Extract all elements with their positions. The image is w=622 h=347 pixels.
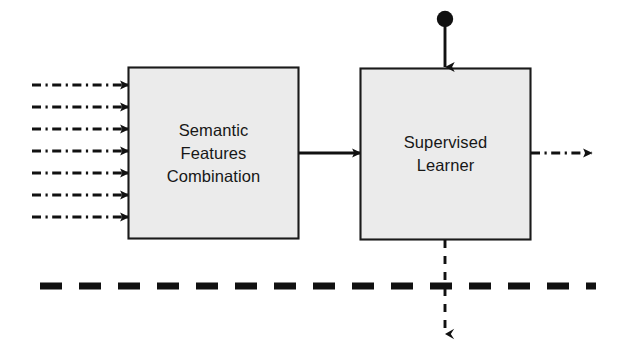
supervised-learner-box[interactable] [361, 69, 531, 240]
input-feature-arrows [32, 85, 129, 217]
diagram-svg [0, 0, 622, 347]
labelled-input-arrow [437, 11, 453, 67]
input-source-dot-icon [437, 11, 453, 27]
semantic-features-combination-box[interactable] [129, 68, 299, 239]
diagram-canvas: Semantic Features Combination Supervised… [0, 0, 622, 347]
